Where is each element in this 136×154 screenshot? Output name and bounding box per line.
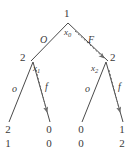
right-player-label: 2 (110, 52, 116, 63)
action-label-left-f: f (45, 82, 48, 92)
left-player-label: 2 (20, 52, 26, 63)
edge-right-f (106, 62, 123, 122)
leaf-payoff-bottom: 0 (74, 138, 88, 149)
action-label-right-o: o (85, 84, 90, 94)
leaf-payoff-top: 0 (74, 124, 88, 135)
root-player-label: 1 (64, 8, 70, 19)
leaf-payoff-bottom: 2 (115, 138, 129, 149)
leaf-payoff-bottom: 0 (42, 138, 56, 149)
action-label-root-left: O (40, 35, 47, 45)
leaf-payoff-bottom: 1 (1, 138, 15, 149)
leaf-payoff-top: 1 (115, 124, 129, 135)
game-tree-figure: 1 x0 O F 2 x1 2 x2 o f o f 2 1 0 0 0 0 1… (0, 0, 136, 154)
leaf-payoff-top: 0 (42, 124, 56, 135)
leaf-payoff-top: 2 (1, 124, 15, 135)
edge-root-left (31, 23, 68, 61)
action-label-right-f: f (118, 82, 121, 92)
left-node-name: x1 (33, 64, 40, 74)
right-node-name: x2 (91, 64, 98, 74)
action-label-left-o: o (12, 84, 17, 94)
action-label-root-right: F (88, 35, 94, 45)
root-node-name: x0 (64, 28, 71, 38)
